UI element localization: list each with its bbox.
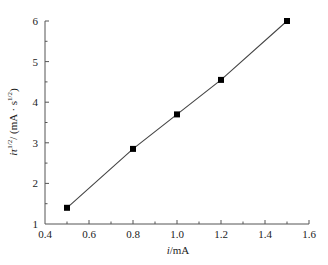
y-tick-label: 5 [33, 56, 39, 68]
y-tick-label: 2 [33, 177, 39, 189]
y-tick-label: 3 [33, 137, 39, 149]
y-tick-label: 6 [33, 15, 39, 27]
axes [45, 21, 309, 224]
plot-area [64, 18, 290, 211]
data-point-marker [174, 111, 180, 117]
y-axis-ticks: 123456 [33, 15, 50, 230]
x-tick-label: 0.8 [126, 228, 140, 240]
y-axis-title: iτ1/2/ (mA · s1/2) [6, 88, 20, 156]
x-axis-title: i/mA [167, 244, 190, 256]
y-tick-label: 4 [33, 96, 39, 108]
x-tick-label: 1.0 [170, 228, 184, 240]
data-point-marker [218, 77, 224, 83]
x-tick-label: 0.6 [82, 228, 96, 240]
data-point-marker [284, 18, 290, 24]
x-tick-label: 0.4 [38, 228, 52, 240]
x-tick-label: 1.4 [258, 228, 272, 240]
x-axis-ticks: 0.40.60.81.01.21.41.6 [38, 220, 316, 240]
data-point-marker [130, 146, 136, 152]
chart: 123456 0.40.60.81.01.21.41.6 i/mA iτ1/2/… [0, 0, 328, 265]
x-axis-unit: /mA [170, 244, 190, 256]
x-tick-label: 1.2 [214, 228, 228, 240]
y-axis-unit-pre: / (mA · s [7, 101, 20, 140]
y-axis-unit-post: ) [7, 88, 20, 92]
x-tick-label: 1.6 [302, 228, 316, 240]
data-point-marker [64, 205, 70, 211]
